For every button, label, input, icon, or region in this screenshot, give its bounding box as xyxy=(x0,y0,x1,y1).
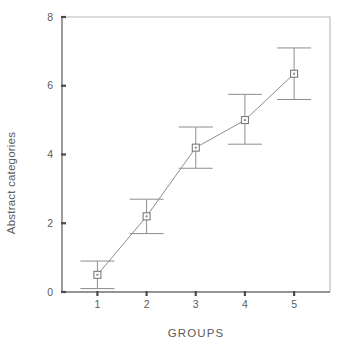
y-tick-label: 0 xyxy=(47,286,53,298)
x-tick-label: 1 xyxy=(94,298,100,310)
chart-plot-area: 02468 12345 xyxy=(0,0,351,354)
x-tick-label: 4 xyxy=(242,298,248,310)
chart-figure: Abstract categories GROUPS 02468 12345 xyxy=(0,0,351,354)
data-point-center xyxy=(146,215,148,217)
y-tick-label: 2 xyxy=(47,217,53,229)
y-tick-label: 6 xyxy=(47,79,53,91)
y-axis-ticks: 02468 xyxy=(47,11,66,298)
data-point-markers xyxy=(94,70,298,278)
error-bars xyxy=(80,48,311,289)
x-tick-label: 5 xyxy=(291,298,297,310)
data-point-center xyxy=(96,274,98,276)
x-tick-label: 3 xyxy=(193,298,199,310)
y-tick-label: 8 xyxy=(47,11,53,23)
x-tick-label: 2 xyxy=(144,298,150,310)
data-point-center xyxy=(244,119,246,121)
y-tick-label: 4 xyxy=(47,148,53,160)
data-point-center xyxy=(195,147,197,149)
series-line xyxy=(97,74,294,275)
data-point-center xyxy=(293,73,295,75)
x-axis-ticks: 12345 xyxy=(94,291,297,310)
